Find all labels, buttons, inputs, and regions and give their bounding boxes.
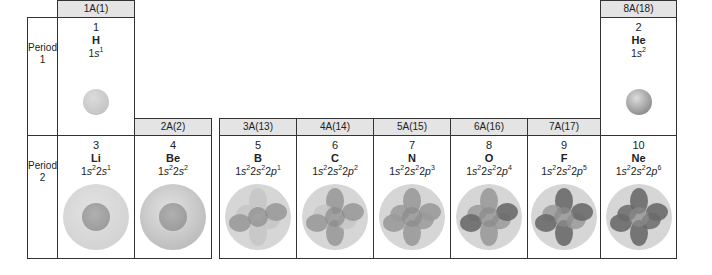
electron-configuration: 1s22s2 [135, 165, 211, 178]
orbital-2p-lobes-icon [224, 183, 292, 251]
atomic-number: 2 [601, 21, 676, 34]
element-symbol: O [451, 152, 527, 165]
electron-configuration: 1s22s22p1 [220, 165, 296, 178]
group-header-8a: 8A(18) [600, 0, 677, 18]
element-cell-ne: 10Ne1s22s22p6 [600, 135, 677, 259]
element-cell-be: 4Be1s22s2 [134, 135, 212, 259]
electron-configuration: 1s2 [601, 47, 676, 60]
atomic-number: 6 [297, 139, 373, 152]
element-cell-he: 2He1s2 [600, 17, 677, 136]
orbital-2p-lobes-icon [378, 183, 446, 251]
electron-configuration: 1s1 [58, 47, 134, 60]
electron-configuration: 1s22s22p4 [451, 165, 527, 178]
electron-configuration: 1s22s22p5 [528, 165, 600, 178]
orbital-2s-sphere-icon [62, 183, 130, 251]
element-symbol: N [374, 152, 450, 165]
electron-configuration: 1s22s22p6 [601, 165, 676, 178]
element-symbol: C [297, 152, 373, 165]
element-symbol: Be [135, 152, 211, 165]
atomic-number: 3 [58, 139, 134, 152]
atomic-number: 7 [374, 139, 450, 152]
group-header-5a: 5A(15) [373, 118, 451, 136]
electron-configuration: 1s22s1 [58, 165, 134, 178]
period-2-label: Period [28, 160, 57, 172]
element-symbol: F [528, 152, 600, 165]
atomic-number: 1 [58, 21, 134, 34]
element-symbol: H [58, 34, 134, 47]
electron-configuration: 1s22s22p2 [297, 165, 373, 178]
atomic-number: 10 [601, 139, 676, 152]
element-cell-f: 9F1s22s22p5 [527, 135, 601, 259]
orbital-1s-sphere-icon [82, 88, 110, 116]
period-1-number: 1 [28, 54, 57, 66]
group-header-1a: 1A(1) [57, 0, 135, 18]
element-cell-li: 3Li1s22s1 [57, 135, 135, 259]
element-cell-o: 8O1s22s22p4 [450, 135, 528, 259]
element-cell-n: 7N1s22s22p3 [373, 135, 451, 259]
period-1-label-cell: Period 1 [27, 17, 58, 136]
element-symbol: He [601, 34, 676, 47]
electron-configuration: 1s22s22p3 [374, 165, 450, 178]
group-header-6a: 6A(16) [450, 118, 528, 136]
orbital-2p-lobes-icon [605, 183, 673, 251]
element-symbol: Ne [601, 152, 676, 165]
atomic-number: 5 [220, 139, 296, 152]
element-symbol: Li [58, 152, 134, 165]
atomic-number: 9 [528, 139, 600, 152]
group-header-4a: 4A(14) [296, 118, 374, 136]
orbital-2p-lobes-icon [530, 183, 598, 251]
orbital-1s-sphere-icon [625, 88, 653, 116]
orbital-2p-lobes-icon [455, 183, 523, 251]
group-header-3a: 3A(13) [219, 118, 297, 136]
atomic-number: 4 [135, 139, 211, 152]
group-header-7a: 7A(17) [527, 118, 601, 136]
group-header-2a: 2A(2) [134, 118, 212, 136]
period-2-number: 2 [28, 172, 57, 184]
element-cell-h: 1H1s1 [57, 17, 135, 136]
orbital-2p-lobes-icon [301, 183, 369, 251]
element-cell-c: 6C1s22s22p2 [296, 135, 374, 259]
period-1-label: Period [28, 42, 57, 54]
orbital-2s-sphere-icon [139, 183, 207, 251]
period-2-label-cell: Period 2 [27, 135, 58, 259]
element-cell-b: 5B1s22s22p1 [219, 135, 297, 259]
element-symbol: B [220, 152, 296, 165]
atomic-number: 8 [451, 139, 527, 152]
